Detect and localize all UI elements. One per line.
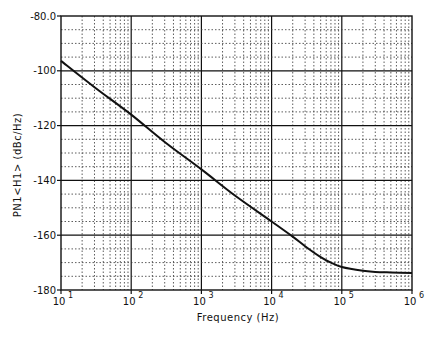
y-tick-label: -180 bbox=[33, 285, 56, 296]
y-tick-label: -80.0 bbox=[30, 11, 56, 22]
x-tick-exponent: 4 bbox=[279, 291, 284, 300]
grid-lines bbox=[61, 16, 412, 290]
x-tick-label: 10 bbox=[193, 296, 206, 307]
x-tick-exponent: 5 bbox=[349, 291, 354, 300]
x-tick-exponent: 6 bbox=[419, 291, 424, 300]
x-tick-label: 10 bbox=[263, 296, 276, 307]
y-tick-label: -120 bbox=[33, 120, 56, 131]
x-tick-label: 10 bbox=[333, 296, 346, 307]
y-axis-ticks: -80.0-100-120-140-160-180 bbox=[30, 11, 61, 296]
y-tick-label: -140 bbox=[33, 175, 56, 186]
y-axis-label: PN1<H1> (dBc/Hz) bbox=[12, 113, 23, 217]
x-tick-exponent: 3 bbox=[208, 291, 213, 300]
x-tick-exponent: 1 bbox=[68, 291, 73, 300]
x-tick-label: 10 bbox=[53, 296, 66, 307]
phase-noise-chart: -80.0-100-120-140-160-180 10110210310410… bbox=[0, 0, 439, 341]
y-tick-label: -160 bbox=[33, 230, 56, 241]
x-axis-label: Frequency (Hz) bbox=[197, 312, 279, 323]
y-tick-label: -100 bbox=[33, 65, 56, 76]
x-tick-exponent: 2 bbox=[138, 291, 143, 300]
x-tick-label: 10 bbox=[404, 296, 417, 307]
x-axis-ticks: 101102103104105106 bbox=[53, 290, 424, 307]
x-tick-label: 10 bbox=[123, 296, 136, 307]
